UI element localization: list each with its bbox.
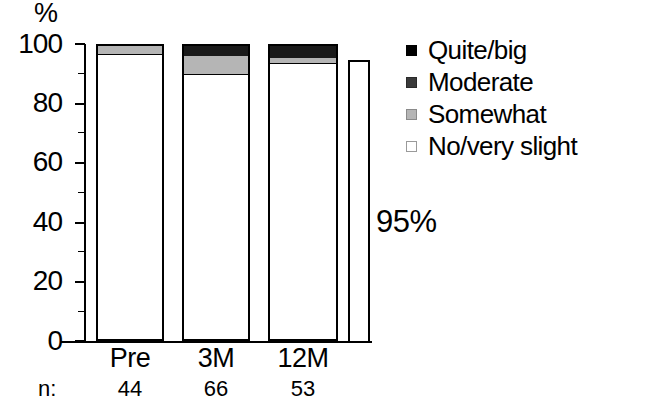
x-label-pre: Pre xyxy=(96,345,164,372)
x-label-3m: 3M xyxy=(182,345,250,372)
bar-12m xyxy=(268,44,338,341)
x-label-12m: 12M xyxy=(268,345,338,372)
legend-item-quite-big: Quite/big xyxy=(406,34,646,66)
bar-12m-segment-no-very-slight xyxy=(270,64,336,339)
legend-label-no-very-slight: No/very slight xyxy=(428,133,577,159)
legend-swatch-icon-quite-big xyxy=(406,45,417,56)
bar-pre-segment-somewhat xyxy=(98,46,162,55)
bar-pre xyxy=(96,44,164,341)
sample-size-pre: 44 xyxy=(96,378,164,400)
stacked-bar-chart: % 100 80 60 40 20 0 xyxy=(0,0,652,416)
sample-size-12m: 53 xyxy=(268,378,338,400)
legend-swatch-icon-somewhat xyxy=(406,109,417,120)
sample-size-prefix: n: xyxy=(38,378,56,400)
legend-label-somewhat: Somewhat xyxy=(428,101,546,127)
bar-3m-segment-somewhat xyxy=(184,56,248,75)
legend-item-somewhat: Somewhat xyxy=(406,98,646,130)
legend-label-moderate: Moderate xyxy=(428,69,533,95)
legend-swatch-icon-no-very-slight xyxy=(406,141,417,152)
legend-label-quite-big: Quite/big xyxy=(428,37,527,63)
legend-item-no-very-slight: No/very slight xyxy=(406,130,646,162)
reference-bracket-label: 95% xyxy=(376,206,437,237)
reference-bracket-bar xyxy=(348,60,370,343)
bar-3m xyxy=(182,44,250,341)
legend-item-moderate: Moderate xyxy=(406,66,646,98)
sample-size-3m: 66 xyxy=(182,378,250,400)
bar-12m-segment-quite-big xyxy=(270,46,336,58)
bar-pre-segment-no-very-slight xyxy=(98,55,162,339)
bar-3m-segment-no-very-slight xyxy=(184,75,248,339)
legend: Quite/big Moderate Somewhat No/very slig… xyxy=(406,34,646,162)
bar-3m-segment-quite-big xyxy=(184,46,248,56)
legend-swatch-icon-moderate xyxy=(406,77,417,88)
